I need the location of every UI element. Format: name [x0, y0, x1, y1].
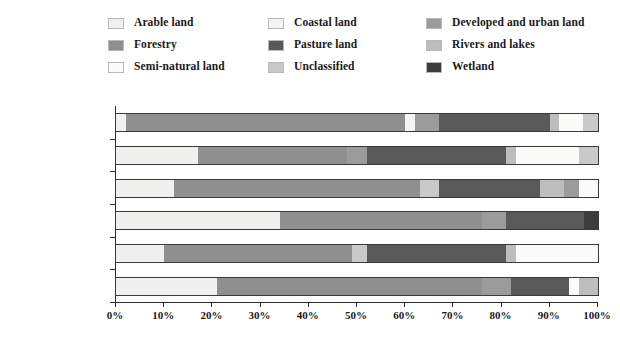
bar-segment[interactable]: [347, 147, 366, 164]
x-axis-tick: [501, 302, 502, 307]
x-axis-tick-label: 50%: [345, 309, 367, 321]
bar-segment[interactable]: [280, 212, 482, 229]
legend-label: Wetland: [452, 61, 494, 73]
legend-swatch-pasture-land: [268, 40, 284, 51]
bar-segment[interactable]: [516, 147, 579, 164]
legend-label: Rivers and lakes: [452, 39, 535, 51]
legend-swatch-unclassified: [268, 62, 284, 73]
bar-segment[interactable]: [116, 245, 164, 262]
x-axis-tick: [597, 302, 598, 307]
legend-swatch-wetland: [426, 62, 442, 73]
x-axis-tick: [549, 302, 550, 307]
bar-segment[interactable]: [367, 245, 507, 262]
x-axis-tick-label: 10%: [152, 309, 174, 321]
bar-segment[interactable]: [564, 180, 578, 197]
stacked-bar[interactable]: [115, 277, 599, 296]
stacked-bar[interactable]: [115, 244, 599, 263]
bar-segment[interactable]: [116, 212, 280, 229]
x-axis-tick: [260, 302, 261, 307]
stacked-bar[interactable]: [115, 211, 599, 230]
legend-swatch-semi-natural-land: [108, 62, 124, 73]
y-axis-tick: [110, 139, 116, 140]
bar-segment[interactable]: [506, 245, 516, 262]
x-axis-tick-label: 0%: [107, 309, 124, 321]
plot-area: 0%10%20%30%40%50%60%70%80%90%100% North …: [115, 106, 597, 302]
legend-item[interactable]: Developed and urban land: [426, 12, 608, 34]
legend-label: Developed and urban land: [452, 17, 584, 29]
legend-label: Coastal land: [294, 17, 357, 29]
bar-segment[interactable]: [116, 147, 198, 164]
bar-segment[interactable]: [583, 114, 597, 131]
legend-item[interactable]: Rivers and lakes: [426, 34, 608, 56]
y-axis-tick: [110, 237, 116, 238]
bar-segment[interactable]: [116, 180, 174, 197]
bar-segment[interactable]: [439, 180, 540, 197]
x-axis-tick-label: 90%: [538, 309, 560, 321]
legend-item[interactable]: Pasture land: [268, 34, 426, 56]
bar-segment[interactable]: [540, 180, 564, 197]
bar-segment[interactable]: [569, 278, 579, 295]
bar-segment[interactable]: [126, 114, 406, 131]
x-axis-tick-label: 20%: [200, 309, 222, 321]
x-axis-tick-label: 30%: [249, 309, 271, 321]
stacked-bar[interactable]: [115, 146, 599, 165]
bar-segment[interactable]: [506, 147, 516, 164]
bar-segment[interactable]: [511, 278, 569, 295]
x-axis-tick-label: 100%: [583, 309, 611, 321]
bar-segment[interactable]: [174, 180, 420, 197]
chart-legend: Arable landForestrySemi-natural landCoas…: [108, 12, 608, 78]
x-axis-tick: [163, 302, 164, 307]
y-axis-tick: [110, 204, 116, 205]
bar-segment[interactable]: [559, 114, 583, 131]
legend-swatch-coastal-land: [268, 18, 284, 29]
bar-segment[interactable]: [579, 278, 598, 295]
bar-segment[interactable]: [579, 180, 598, 197]
bar-segment[interactable]: [415, 114, 439, 131]
x-axis-tick: [356, 302, 357, 307]
bar-segment[interactable]: [367, 147, 507, 164]
bar-segment[interactable]: [439, 114, 550, 131]
bar-segment[interactable]: [420, 180, 439, 197]
legend-label: Unclassified: [294, 61, 355, 73]
legend-swatch-developed-and-urban-land: [426, 18, 442, 29]
legend-label: Arable land: [134, 17, 194, 29]
x-axis-tick: [211, 302, 212, 307]
bar-segment[interactable]: [579, 147, 598, 164]
x-axis-tick: [404, 302, 405, 307]
legend-swatch-rivers-and-lakes: [426, 40, 442, 51]
legend-item[interactable]: Arable land: [108, 12, 268, 34]
bar-segment[interactable]: [116, 278, 217, 295]
bar-segment[interactable]: [352, 245, 366, 262]
bar-segment[interactable]: [516, 245, 598, 262]
legend-item[interactable]: Semi-natural land: [108, 56, 268, 78]
bar-segment[interactable]: [482, 212, 506, 229]
x-axis-tick-label: 60%: [393, 309, 415, 321]
y-axis-tick: [110, 171, 116, 172]
stacked-bar[interactable]: [115, 113, 599, 132]
bar-segment[interactable]: [584, 212, 598, 229]
bar-segment[interactable]: [550, 114, 560, 131]
bar-segment[interactable]: [482, 278, 511, 295]
bar-segment[interactable]: [116, 114, 126, 131]
legend-item[interactable]: Wetland: [426, 56, 608, 78]
y-axis-tick: [110, 302, 116, 303]
legend-label: Semi-natural land: [134, 61, 225, 73]
bar-segment[interactable]: [198, 147, 347, 164]
legend-item[interactable]: Coastal land: [268, 12, 426, 34]
bar-segment[interactable]: [217, 278, 482, 295]
x-axis-tick-label: 70%: [441, 309, 463, 321]
y-axis-tick: [110, 269, 116, 270]
bar-segment[interactable]: [405, 114, 415, 131]
legend-item[interactable]: Forestry: [108, 34, 268, 56]
legend-label: Pasture land: [294, 39, 357, 51]
bar-segment[interactable]: [506, 212, 583, 229]
legend-item[interactable]: Unclassified: [268, 56, 426, 78]
x-axis-tick-label: 40%: [297, 309, 319, 321]
stacked-bar-chart: Arable landForestrySemi-natural landCoas…: [0, 0, 620, 337]
stacked-bar[interactable]: [115, 179, 599, 198]
bar-segment[interactable]: [164, 245, 352, 262]
legend-label: Forestry: [134, 39, 177, 51]
x-axis-tick: [308, 302, 309, 307]
x-axis-tick: [452, 302, 453, 307]
legend-swatch-arable-land: [108, 18, 124, 29]
